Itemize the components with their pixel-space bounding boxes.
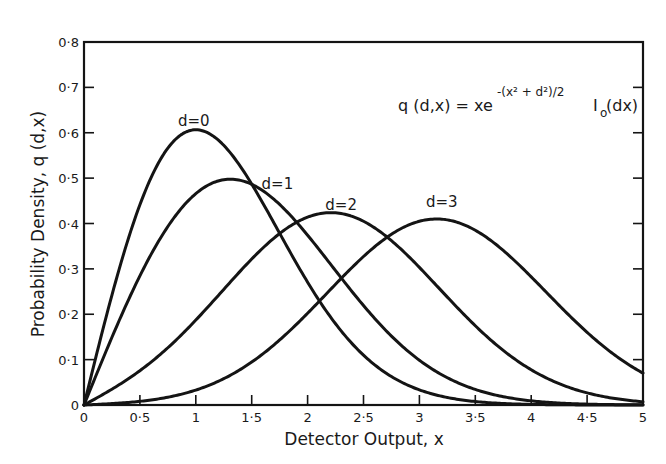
- formula-bessel: I: [593, 96, 598, 115]
- formula-lhs: q (d,x) = xe: [398, 96, 493, 115]
- curve-d-3: [84, 219, 643, 405]
- curves: [84, 130, 643, 405]
- curve-d-2: [84, 213, 643, 405]
- curve-d-1: [84, 179, 643, 405]
- x-tick-label: 1·5: [241, 410, 262, 425]
- x-tick-label: 2: [303, 410, 311, 425]
- x-tick-label: 3: [415, 410, 423, 425]
- chart: 00·10·20·30·40·50·60·70·8 00·511·522·533…: [0, 0, 666, 464]
- curve-d-0: [84, 130, 643, 405]
- y-tick-label: 0: [71, 398, 79, 413]
- x-tick-label: 4·5: [577, 410, 598, 425]
- y-tick-label: 0·6: [58, 126, 79, 141]
- curve-label-d-0: d=0: [178, 112, 210, 130]
- y-tick-label: 0·7: [58, 80, 79, 95]
- x-tick-label: 3·5: [465, 410, 486, 425]
- curve-label-d-1: d=1: [262, 175, 294, 193]
- y-tick-label: 0·5: [58, 171, 79, 186]
- y-axis-title: Probability Density, q (d,x): [28, 111, 48, 337]
- formula-exponent: -(x² + d²)/2: [497, 85, 564, 99]
- curve-label-d-3: d=3: [426, 193, 458, 211]
- curve-label-d-2: d=2: [325, 196, 357, 214]
- curve-labels: d=0d=1d=2d=3: [178, 112, 458, 214]
- x-tick-label: 2·5: [353, 410, 374, 425]
- x-tick-label: 5: [639, 410, 647, 425]
- y-tick-label: 0·3: [58, 262, 79, 277]
- x-tick-label: 1: [192, 410, 200, 425]
- formula-bessel-arg: (dx): [606, 96, 638, 115]
- x-tick-label: 0: [80, 410, 88, 425]
- x-axis-ticks: 00·511·522·533·544·55: [80, 395, 647, 425]
- y-tick-label: 0·2: [58, 307, 79, 322]
- x-tick-label: 4: [527, 410, 535, 425]
- x-axis-title: Detector Output, x: [284, 429, 443, 449]
- y-tick-label: 0·8: [58, 35, 79, 50]
- y-tick-label: 0·4: [58, 217, 79, 232]
- formula-annotation: q (d,x) = xe -(x² + d²)/2 I o (dx): [398, 85, 638, 120]
- y-tick-label: 0·1: [58, 353, 79, 368]
- x-tick-label: 0·5: [130, 410, 151, 425]
